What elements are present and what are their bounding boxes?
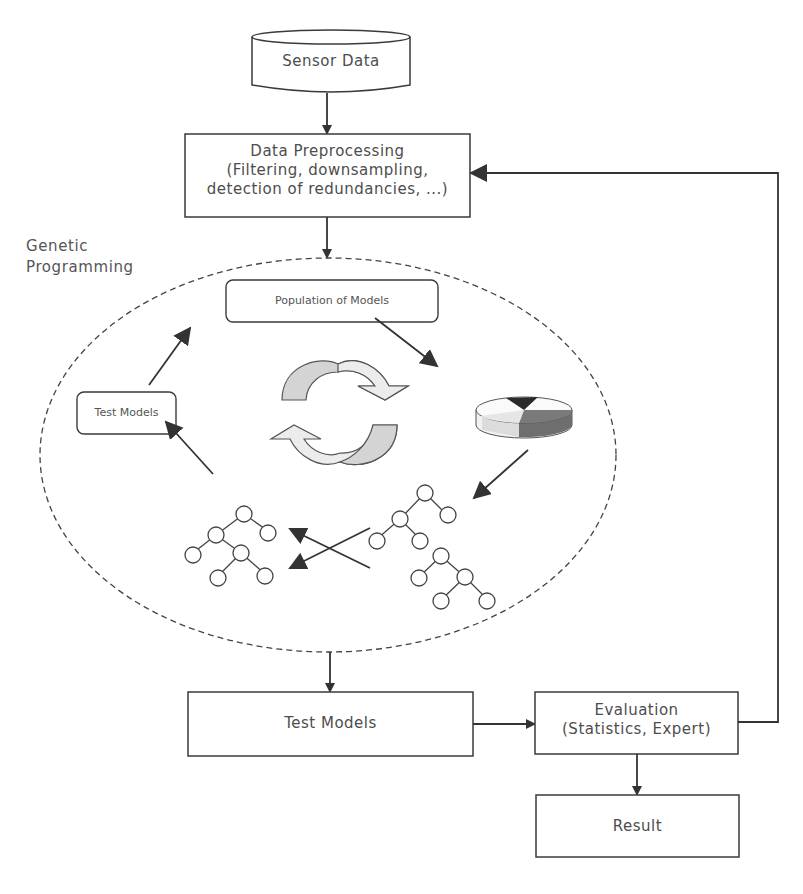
result-label: Result <box>536 817 739 836</box>
gp-label-line2: Programming <box>26 257 134 278</box>
preprocessing-line3: detection of redundancies, ...) <box>185 180 470 199</box>
arrow-trees-to-test <box>166 422 213 474</box>
arrow-test-to-population <box>149 328 190 385</box>
gp-label-line1: Genetic <box>26 236 134 257</box>
population-label: Population of Models <box>226 294 438 308</box>
expression-tree-icon-left <box>185 506 276 586</box>
inner-test-models-label: Test Models <box>77 406 176 420</box>
evaluation-label: Evaluation (Statistics, Expert) <box>535 701 738 739</box>
cycle-arrows-icon <box>271 361 408 465</box>
arrow-population-to-selection <box>375 318 437 366</box>
arrow-selection-to-trees <box>474 450 528 498</box>
expression-tree-icon-right-bottom <box>411 548 495 609</box>
preprocessing-title: Data Preprocessing <box>185 142 470 161</box>
evaluation-subtitle: (Statistics, Expert) <box>535 720 738 739</box>
crossover-arrows-icon <box>290 528 370 568</box>
expression-tree-icon-right-top <box>369 485 456 549</box>
pie-chart-icon <box>476 397 572 438</box>
preprocessing-line2: (Filtering, downsampling, <box>185 161 470 180</box>
sensor-data-label: Sensor Data <box>252 52 410 71</box>
genetic-programming-label: Genetic Programming <box>26 236 134 278</box>
test-models-label: Test Models <box>188 714 473 733</box>
diagram-canvas <box>0 0 803 894</box>
preprocessing-label: Data Preprocessing (Filtering, downsampl… <box>185 142 470 198</box>
evaluation-title: Evaluation <box>535 701 738 720</box>
arrow-feedback-to-preprocessing <box>471 173 778 722</box>
